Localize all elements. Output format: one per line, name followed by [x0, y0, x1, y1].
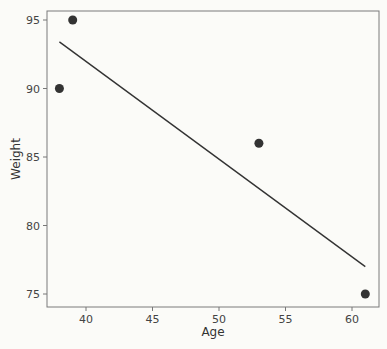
y-axis-label: Weight	[9, 138, 23, 180]
scatter-chart: 4045505560 7580859095 Age Weight	[0, 0, 387, 349]
data-point	[68, 16, 77, 25]
y-tick-label: 95	[26, 14, 40, 27]
x-tick-label: 45	[146, 313, 160, 326]
x-tick-label: 60	[345, 313, 359, 326]
x-axis-label: Age	[201, 325, 224, 339]
data-point	[361, 290, 370, 299]
x-tick-label: 55	[279, 313, 293, 326]
y-axis: 7580859095	[26, 14, 47, 301]
y-tick-label: 90	[26, 83, 40, 96]
data-point	[55, 84, 64, 93]
y-tick-label: 85	[26, 151, 40, 164]
x-axis: 4045505560	[79, 307, 359, 326]
plot-frame	[47, 11, 379, 307]
y-tick-label: 75	[26, 288, 40, 301]
regression-line	[59, 42, 365, 267]
x-tick-label: 40	[79, 313, 93, 326]
data-point	[254, 139, 263, 148]
y-tick-label: 80	[26, 220, 40, 233]
data-points	[55, 16, 370, 299]
